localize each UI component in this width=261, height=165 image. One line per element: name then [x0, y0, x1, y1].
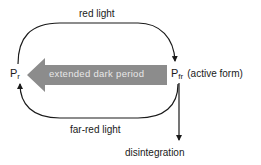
red-light-arrow: [18, 23, 175, 64]
node-pr: Pr: [10, 68, 20, 81]
diagram-canvas: [0, 0, 261, 165]
pr-subscript: r: [17, 72, 20, 81]
node-pfr: Pfr(active form): [171, 68, 243, 81]
pfr-active-form-note: (active form): [187, 68, 243, 79]
disintegration-label: disintegration: [125, 148, 184, 158]
far-red-light-label: far-red light: [70, 125, 121, 135]
red-light-label: red light: [79, 9, 115, 19]
pfr-subscript: fr: [178, 72, 183, 81]
extended-dark-period-label: extended dark period: [49, 69, 144, 79]
